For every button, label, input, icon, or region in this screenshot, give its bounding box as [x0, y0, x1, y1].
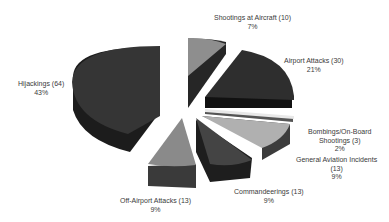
pie-chart — [0, 0, 389, 222]
label-text: General Aviation Incidents — [296, 156, 377, 165]
label-percent: 9% — [120, 206, 191, 215]
label-text: Off-Airport Attacks (13) — [120, 197, 191, 206]
label-airport-attacks: Airport Attacks (30) 21% — [284, 57, 344, 74]
label-percent: 7% — [214, 23, 291, 32]
label-text: Hijackings (64) — [18, 80, 64, 89]
label-percent: 9% — [296, 173, 377, 182]
label-general-aviation: General Aviation Incidents (13) 9% — [296, 156, 377, 182]
label-text: Bombings/On-Board — [308, 128, 371, 137]
label-percent: 9% — [234, 197, 304, 206]
label-percent: 21% — [284, 66, 344, 75]
label-percent: 2% — [308, 145, 371, 154]
slice-off-airport-attacks — [148, 118, 196, 188]
slice-hijackings — [72, 46, 160, 152]
label-off-airport-attacks: Off-Airport Attacks (13) 9% — [120, 197, 191, 214]
label-text: Airport Attacks (30) — [284, 57, 344, 66]
label-bombings: Bombings/On-Board Shootings (3) 2% — [308, 128, 371, 154]
label-shootings-at-aircraft: Shootings at Aircraft (10) 7% — [214, 14, 291, 31]
label-percent: 43% — [18, 89, 64, 98]
label-text: Shootings (3) — [308, 137, 371, 146]
label-hijackings: Hijackings (64) 43% — [18, 80, 64, 97]
label-text: Commandeerings (13) — [234, 188, 304, 197]
label-text: Shootings at Aircraft (10) — [214, 14, 291, 23]
label-commandeerings: Commandeerings (13) 9% — [234, 188, 304, 205]
label-text: (13) — [296, 165, 377, 174]
